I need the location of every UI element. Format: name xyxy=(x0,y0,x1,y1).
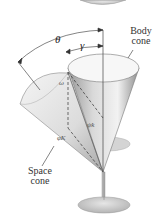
body-cone-label: Body cone xyxy=(126,26,156,46)
stand xyxy=(78,172,130,213)
omega-label: ω xyxy=(59,78,64,88)
gamma-label: γ xyxy=(80,40,84,50)
theta-label: θ xyxy=(55,34,60,44)
psi-k-label: ψ̇k xyxy=(87,120,94,130)
body-cone-leader xyxy=(128,50,133,58)
gamma-arc xyxy=(66,44,103,54)
phi-K-label: φ̇K xyxy=(57,133,66,143)
space-cone-label: Space cone xyxy=(24,166,56,186)
top-disk xyxy=(80,0,126,5)
space-cone-leader xyxy=(42,146,54,166)
